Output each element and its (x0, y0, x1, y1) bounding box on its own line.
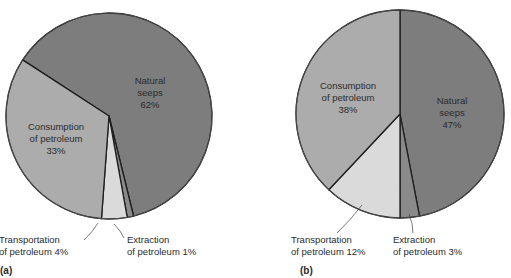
label-line: seeps (137, 87, 163, 98)
label-line: 33% (46, 145, 66, 156)
label-line: seeps (439, 107, 465, 118)
label-a-transportation: Transportationof petroleum 4% (0, 234, 69, 257)
label-line: Extraction (127, 234, 169, 245)
panel-label-b: (b) (300, 265, 313, 276)
label-line: of petroleum 12% (291, 246, 366, 257)
label-line: Consumption (320, 80, 376, 91)
label-line: 62% (140, 99, 160, 110)
label-b-extraction: Extractionof petroleum 3% (393, 234, 463, 257)
label-line: Extraction (393, 234, 435, 245)
label-line: of petroleum 3% (393, 246, 463, 257)
label-line: of petroleum (322, 92, 375, 103)
label-line: 38% (338, 104, 358, 115)
label-line: Transportation (0, 234, 60, 245)
pie-charts: Naturalseeps62%Extractionof petroleum 1%… (0, 0, 511, 278)
label-a-extraction: Extractionof petroleum 1% (127, 234, 197, 257)
label-line: of petroleum (30, 133, 83, 144)
label-line: of petroleum 4% (0, 246, 69, 257)
label-line: Natural (437, 95, 468, 106)
label-line: Consumption (28, 121, 84, 132)
label-line: Transportation (291, 234, 352, 245)
label-line: 47% (442, 119, 462, 130)
leader-line-extraction (114, 224, 124, 238)
label-line: Natural (135, 75, 166, 86)
panel-label-a: (a) (0, 265, 12, 276)
label-line: of petroleum 1% (127, 246, 197, 257)
leader-line-transportation (84, 223, 98, 240)
label-b-transportation: Transportationof petroleum 12% (291, 234, 366, 257)
